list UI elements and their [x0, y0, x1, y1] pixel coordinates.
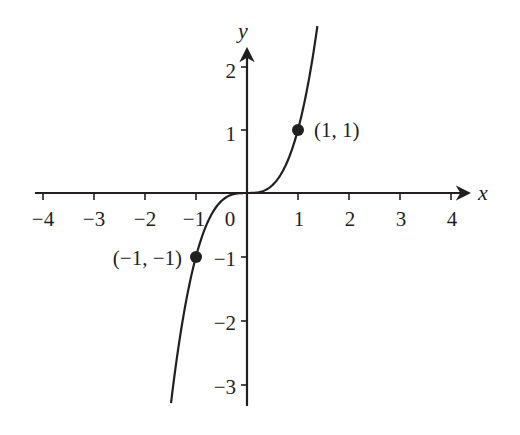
y-tick-label: −3 [214, 375, 236, 399]
point-label-neg1-neg1: (−1, −1) [113, 246, 182, 270]
cubic-function-graph: −4 −3 −2 −1 0 1 2 3 4 2 1 −1 −2 −3 x y (… [0, 0, 520, 435]
origin-label: 0 [225, 207, 236, 231]
x-tick-label: 1 [294, 207, 305, 231]
y-tick-label: −1 [214, 247, 236, 271]
x-tick-label: 2 [345, 207, 356, 231]
x-axis-label: x [477, 180, 488, 205]
y-tick-label: 1 [226, 122, 237, 146]
x-tick-label: 4 [447, 207, 458, 231]
point-label-1-1: (1, 1) [314, 118, 360, 142]
y-axis-label: y [236, 18, 248, 43]
x-tick-labels: −4 −3 −2 −1 0 1 2 3 4 [32, 207, 458, 231]
x-tick-label: −2 [134, 207, 156, 231]
x-tick-label: −3 [83, 207, 105, 231]
x-tick-label: −1 [183, 207, 205, 231]
y-tick-label: 2 [226, 59, 237, 83]
x-tick-label: 3 [396, 207, 407, 231]
point-1-1 [292, 124, 304, 136]
point-neg1-neg1 [190, 251, 202, 263]
y-tick-label: −2 [214, 311, 236, 335]
x-tick-label: −4 [32, 207, 55, 231]
